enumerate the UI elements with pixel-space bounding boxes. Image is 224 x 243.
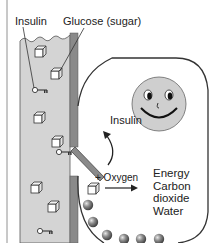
arrow-head-icon <box>103 131 111 139</box>
sugar-cube-icon <box>34 112 45 123</box>
insulin-arrow <box>107 136 113 165</box>
output-carbon: Carbon <box>153 180 191 193</box>
sugar-cube-icon <box>31 182 42 193</box>
output-water: Water <box>153 205 191 218</box>
output-energy: Energy <box>153 167 191 180</box>
oxygen-label: + Oxygen <box>95 172 138 184</box>
arrow-head-icon <box>131 185 138 192</box>
sugar-cube-icon <box>48 201 59 212</box>
insulin-cell-label: Insulin <box>110 114 142 126</box>
sugar-cube-icon <box>52 136 63 147</box>
output-list: Energy Carbon dioxide Water <box>153 167 191 217</box>
glucose-label: Glucose (sugar) <box>63 15 141 27</box>
sugar-cube-icon <box>88 183 99 194</box>
sugar-cube-icon <box>35 46 46 57</box>
output-dioxide: dioxide <box>153 192 191 205</box>
insulin-label: Insulin <box>15 15 47 27</box>
insulin-glucose-diagram: Insulin Glucose (sugar) Insulin + Oxygen… <box>0 0 224 243</box>
